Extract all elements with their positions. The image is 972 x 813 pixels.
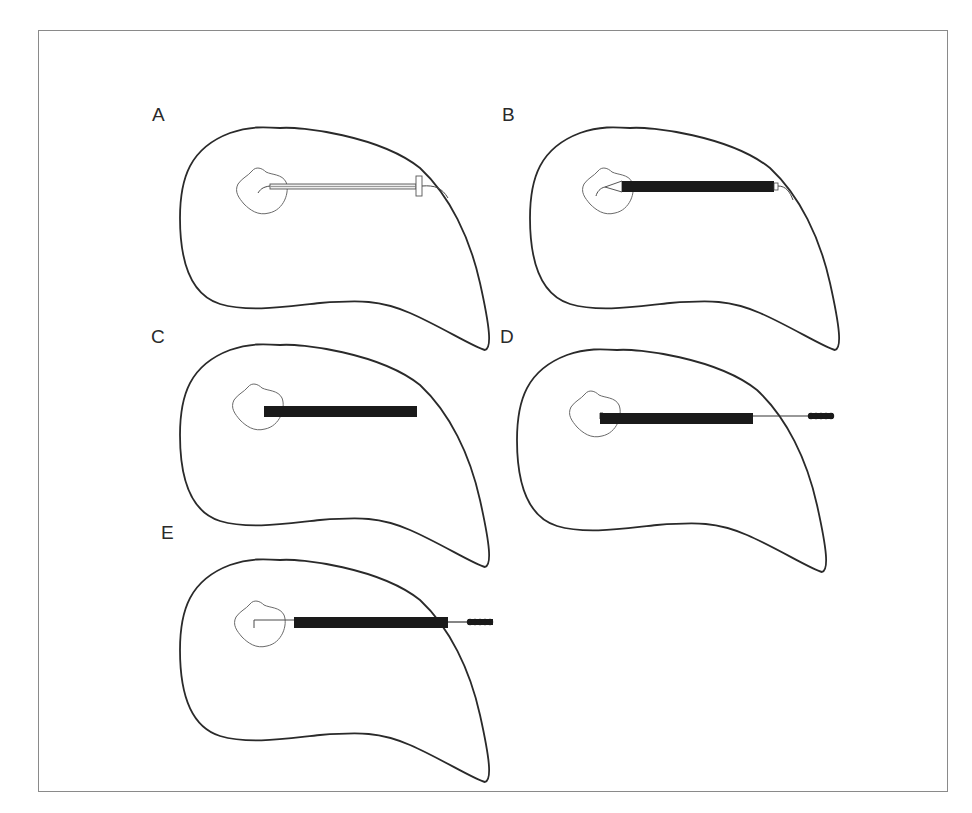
guide-wire-tip (258, 186, 270, 193)
organ-outline (517, 349, 826, 572)
organ-outline (180, 344, 489, 567)
panel-a (180, 127, 489, 350)
sheath (264, 406, 417, 417)
organ-outline (530, 127, 839, 350)
sheath (600, 413, 753, 424)
panel-b (530, 127, 839, 350)
guide-wire-tip (596, 187, 605, 196)
lesion (237, 168, 288, 214)
wire-hook (254, 620, 294, 628)
threaded-screw (808, 413, 834, 419)
sheath (622, 181, 774, 192)
threaded-screw (467, 619, 493, 625)
organ-outline (180, 127, 489, 350)
diagram-canvas (0, 0, 972, 813)
panel-c (180, 344, 489, 567)
sheath (294, 617, 448, 628)
hollow-needle (270, 176, 422, 196)
needle-tip (605, 181, 622, 192)
panel-d (517, 349, 834, 572)
lesion (235, 601, 286, 647)
organ-outline (180, 559, 489, 782)
panel-e (180, 559, 493, 782)
sheath-cap (774, 183, 778, 190)
